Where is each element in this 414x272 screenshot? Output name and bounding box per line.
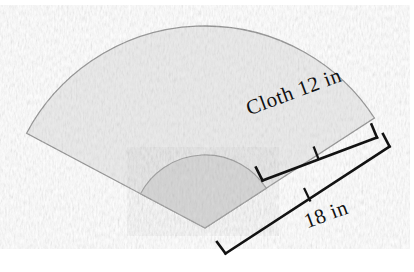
- total-dimension-tick-end: [383, 134, 390, 147]
- total-dimension-tick-start: [217, 242, 226, 254]
- fan-sector-figure: [0, 0, 414, 272]
- cloth-dimension-tick-end: [372, 125, 378, 138]
